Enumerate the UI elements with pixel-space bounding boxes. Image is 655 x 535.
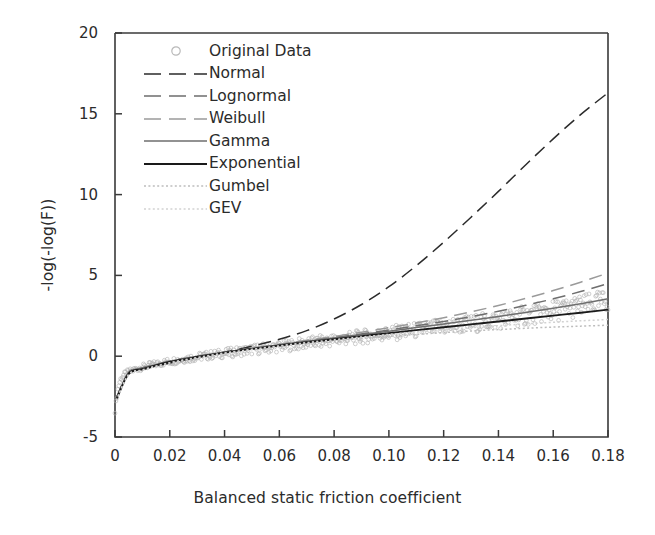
- legend-label: Exponential: [209, 156, 301, 172]
- chart-figure: -505101520 00.020.040.060.080.100.120.14…: [0, 0, 655, 535]
- y-tick-label: 0: [52, 347, 98, 365]
- legend-item-gumbel[interactable]: Gumbel: [143, 175, 358, 198]
- legend-swatch-exponential-icon: [143, 153, 209, 176]
- legend-label: Normal: [209, 66, 265, 82]
- x-tick-label: 0.04: [208, 447, 241, 465]
- y-tick-label: 5: [52, 266, 98, 284]
- legend-item-exponential[interactable]: Exponential: [143, 153, 358, 176]
- y-tick-label: -5: [52, 428, 98, 446]
- legend-swatch-weibull-icon: [143, 108, 209, 131]
- legend-item-gev[interactable]: GEV: [143, 198, 358, 221]
- legend-swatch-gev-icon: [143, 198, 209, 221]
- data-series-original-data: [113, 290, 610, 415]
- legend-swatch-normal-icon: [143, 63, 209, 86]
- x-tick-label: 0.10: [372, 447, 405, 465]
- legend-label: GEV: [209, 201, 241, 217]
- x-tick-label: 0.16: [537, 447, 570, 465]
- x-tick-label: 0.02: [153, 447, 186, 465]
- x-tick-label: 0.06: [263, 447, 296, 465]
- legend-item-lognormal[interactable]: Lognormal: [143, 85, 358, 108]
- legend-swatch-lognormal-icon: [143, 85, 209, 108]
- legend-label: Lognormal: [209, 89, 291, 105]
- x-axis-title: Balanced static friction coefficient: [0, 489, 655, 507]
- legend-label: Gamma: [209, 134, 270, 150]
- x-tick-label: 0.14: [482, 447, 515, 465]
- legend-swatch-gamma-icon: [143, 130, 209, 153]
- data-series-gamma: [116, 299, 608, 399]
- legend-label: Gumbel: [209, 179, 270, 195]
- legend-swatch-original-data-icon: [143, 40, 209, 63]
- y-tick-label: 20: [52, 24, 98, 42]
- legend-label: Weibull: [209, 111, 266, 127]
- x-tick-label: 0.12: [427, 447, 460, 465]
- y-tick-label: 15: [52, 105, 98, 123]
- x-tick-label: 0.08: [317, 447, 350, 465]
- legend-swatch-gumbel-icon: [143, 175, 209, 198]
- legend-item-normal[interactable]: Normal: [143, 63, 358, 86]
- x-tick-label: 0: [110, 447, 120, 465]
- legend-item-weibull[interactable]: Weibull: [143, 108, 358, 131]
- y-tick-label: 10: [52, 186, 98, 204]
- chart-legend: Original DataNormalLognormalWeibullGamma…: [143, 40, 358, 220]
- legend-item-original-data[interactable]: Original Data: [143, 40, 358, 63]
- y-axis-title: -log(-log(F)): [39, 145, 57, 345]
- legend-label: Original Data: [209, 44, 312, 60]
- y-axis-tick-labels: -505101520: [52, 0, 98, 535]
- x-tick-label: 0.18: [591, 447, 624, 465]
- legend-item-gamma[interactable]: Gamma: [143, 130, 358, 153]
